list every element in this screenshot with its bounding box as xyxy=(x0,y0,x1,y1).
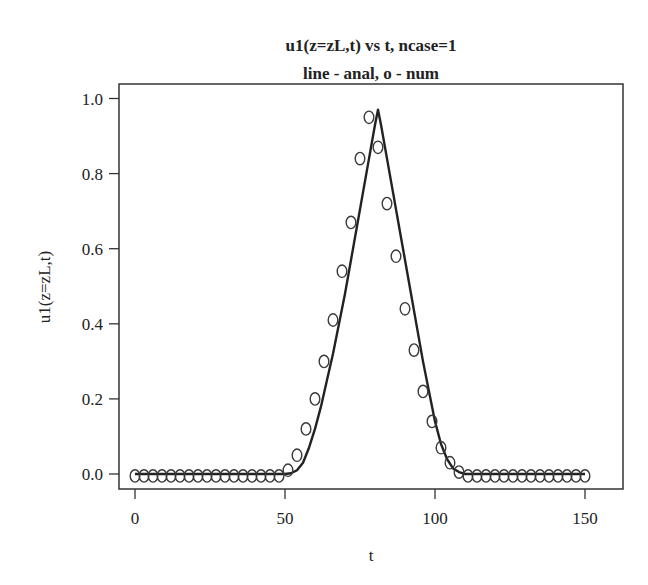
numerical-point-marker xyxy=(409,344,419,356)
numerical-point-marker xyxy=(346,216,356,228)
numerical-point-marker xyxy=(553,470,563,482)
numerical-point-marker xyxy=(364,111,374,123)
numerical-point-marker xyxy=(535,470,545,482)
numerical-point-marker xyxy=(382,197,392,209)
numerical-point-marker xyxy=(211,470,221,482)
numerical-point-marker xyxy=(355,152,365,164)
numerical-point-marker xyxy=(238,470,248,482)
x-axis-label: t xyxy=(369,546,374,565)
numerical-point-marker xyxy=(328,314,338,326)
numerical-point-marker xyxy=(301,423,311,435)
numerical-point-marker xyxy=(202,470,212,482)
numerical-point-marker xyxy=(373,141,383,153)
numerical-point-marker xyxy=(184,470,194,482)
numerical-point-marker xyxy=(148,470,158,482)
numerical-point-marker xyxy=(418,385,428,397)
numerical-point-marker xyxy=(319,355,329,367)
x-tick-label: 150 xyxy=(572,509,598,528)
numerical-point-marker xyxy=(256,470,266,482)
numerical-point-marker xyxy=(571,470,581,482)
numerical-point-marker xyxy=(580,470,590,482)
numerical-point-marker xyxy=(562,470,572,482)
chart-title: u1(z=zL,t) vs t, ncase=1 xyxy=(286,36,457,55)
numerical-point-marker xyxy=(310,393,320,405)
numerical-point-marker xyxy=(544,470,554,482)
x-tick-label: 50 xyxy=(277,509,294,528)
y-tick-label: 0.8 xyxy=(82,165,103,184)
numerical-point-marker xyxy=(139,470,149,482)
x-tick-label: 0 xyxy=(131,509,140,528)
x-tick-label: 100 xyxy=(422,509,448,528)
y-axis: 0.00.20.40.60.81.0 xyxy=(82,90,119,485)
numerical-point-marker xyxy=(508,470,518,482)
numerical-point-marker xyxy=(481,470,491,482)
numerical-point-marker xyxy=(166,470,176,482)
y-tick-label: 0.2 xyxy=(82,390,103,409)
y-tick-label: 0.4 xyxy=(82,315,104,334)
numerical-point-marker xyxy=(499,470,509,482)
chart-canvas: u1(z=zL,t) vs t, ncase=1 line - anal, o … xyxy=(0,0,648,585)
y-tick-label: 1.0 xyxy=(82,90,103,109)
numerical-point-marker xyxy=(157,470,167,482)
numerical-point-marker xyxy=(400,303,410,315)
numerical-point-marker xyxy=(517,470,527,482)
numerical-solution-markers xyxy=(130,111,590,482)
numerical-point-marker xyxy=(337,265,347,277)
numerical-point-marker xyxy=(292,449,302,461)
numerical-point-marker xyxy=(247,470,257,482)
numerical-point-marker xyxy=(526,470,536,482)
numerical-point-marker xyxy=(274,470,284,482)
numerical-point-marker xyxy=(490,470,500,482)
chart-subtitle: line - anal, o - num xyxy=(303,64,439,83)
numerical-point-marker xyxy=(229,470,239,482)
numerical-point-marker xyxy=(472,470,482,482)
y-tick-label: 0.0 xyxy=(82,465,103,484)
numerical-point-marker xyxy=(193,470,203,482)
y-axis-label: u1(z=zL,t) xyxy=(35,251,54,323)
numerical-point-marker xyxy=(391,250,401,262)
numerical-point-marker xyxy=(175,470,185,482)
numerical-point-marker xyxy=(265,470,275,482)
x-axis: 050100150 xyxy=(131,489,598,528)
numerical-point-marker xyxy=(130,470,140,482)
y-tick-label: 0.6 xyxy=(82,240,103,259)
numerical-point-marker xyxy=(463,470,473,482)
chart-figure: u1(z=zL,t) vs t, ncase=1 line - anal, o … xyxy=(0,0,648,585)
numerical-point-marker xyxy=(220,470,230,482)
